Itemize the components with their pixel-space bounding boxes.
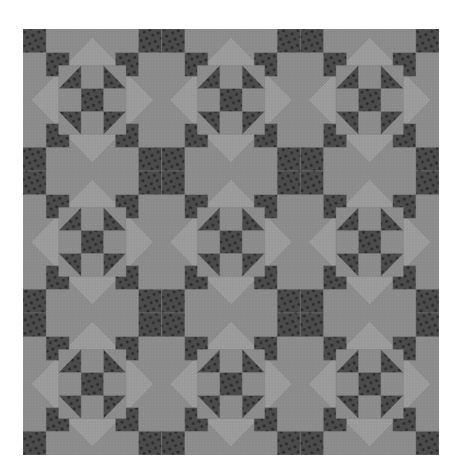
dark-corner-square — [139, 313, 162, 337]
dark-corner-square — [300, 171, 323, 195]
dark-corner-square — [162, 147, 185, 171]
dark-corner-square — [23, 431, 46, 455]
dark-corner-square — [416, 147, 439, 171]
dark-corner-square — [277, 147, 300, 171]
center-dark-square — [220, 231, 242, 254]
center-dark-square — [81, 89, 103, 112]
dark-corner-square — [162, 29, 185, 53]
dark-corner-square — [416, 313, 439, 337]
dark-corner-square — [139, 431, 162, 455]
center-dark-square — [220, 89, 242, 112]
dark-corner-square — [23, 289, 46, 313]
dark-corner-square — [162, 289, 185, 313]
dark-corner-square — [416, 289, 439, 313]
quilt-block — [162, 313, 301, 455]
quilt-block — [300, 313, 439, 455]
dark-corner-square — [277, 313, 300, 337]
dark-corner-square — [277, 29, 300, 53]
quilt-block — [300, 29, 439, 171]
dark-corner-square — [416, 29, 439, 53]
dark-corner-square — [300, 289, 323, 313]
quilt-block — [23, 29, 162, 171]
quilt-block — [162, 29, 301, 171]
dark-corner-square — [23, 147, 46, 171]
quilt-svg — [23, 29, 439, 455]
dark-corner-square — [300, 313, 323, 337]
dark-corner-square — [277, 171, 300, 195]
dark-corner-square — [416, 171, 439, 195]
center-dark-square — [81, 373, 103, 396]
dark-corner-square — [139, 147, 162, 171]
dark-corner-square — [139, 29, 162, 53]
dark-corner-square — [139, 289, 162, 313]
quilt-block — [23, 313, 162, 455]
dark-corner-square — [277, 289, 300, 313]
center-dark-square — [358, 231, 380, 254]
dark-corner-square — [23, 29, 46, 53]
dark-corner-square — [277, 431, 300, 455]
dark-corner-square — [23, 171, 46, 195]
dark-corner-square — [300, 29, 323, 53]
center-dark-square — [358, 89, 380, 112]
quilt — [23, 29, 439, 455]
dark-corner-square — [300, 147, 323, 171]
dark-corner-square — [416, 431, 439, 455]
center-dark-square — [358, 373, 380, 396]
dark-corner-square — [162, 431, 185, 455]
center-dark-square — [220, 373, 242, 396]
quilt-block — [23, 171, 162, 313]
quilt-block — [162, 171, 301, 313]
center-dark-square — [81, 231, 103, 254]
dark-corner-square — [23, 313, 46, 337]
dark-corner-square — [162, 171, 185, 195]
dark-corner-square — [162, 313, 185, 337]
dark-corner-square — [139, 171, 162, 195]
dark-corner-square — [300, 431, 323, 455]
quilt-block — [300, 171, 439, 313]
